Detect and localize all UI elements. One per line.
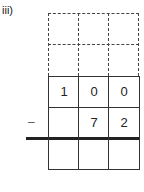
minuend-digit: 1 bbox=[49, 76, 79, 107]
minuend-digit: 0 bbox=[79, 76, 109, 107]
carry-cell[interactable] bbox=[109, 13, 139, 44]
answer-cell[interactable] bbox=[109, 139, 139, 170]
minuend-digit: 0 bbox=[109, 76, 139, 107]
subtrahend-digit: 2 bbox=[109, 107, 139, 138]
grid-line bbox=[139, 76, 140, 170]
carry-cell[interactable] bbox=[79, 44, 109, 75]
carry-cell[interactable] bbox=[49, 13, 79, 44]
answer-cell[interactable] bbox=[79, 139, 109, 170]
subtrahend-digit bbox=[49, 107, 79, 138]
problem-label: iii) bbox=[2, 4, 13, 16]
subtrahend-digit: 7 bbox=[79, 107, 109, 138]
carry-cell[interactable] bbox=[109, 44, 139, 75]
carry-cell[interactable] bbox=[79, 13, 109, 44]
carry-cell[interactable] bbox=[49, 44, 79, 75]
answer-cell[interactable] bbox=[49, 139, 79, 170]
minus-sign: – bbox=[28, 115, 35, 129]
